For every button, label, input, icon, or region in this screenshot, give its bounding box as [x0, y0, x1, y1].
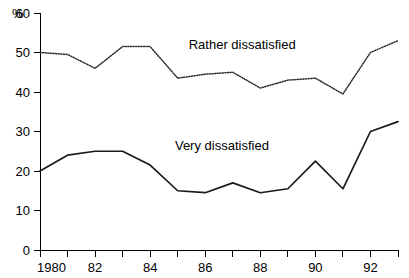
- x-tick-label: 1980: [37, 260, 66, 275]
- x-tick-label: 84: [143, 260, 157, 275]
- chart-container: 0102030405060 1980828486889092 Rather di…: [0, 0, 409, 278]
- x-tick-label: 82: [88, 260, 102, 275]
- y-axis: 0102030405060: [16, 6, 40, 258]
- y-tick-label: 40: [16, 85, 30, 100]
- series-label-group: Rather dissatisfiedVery dissatisfied: [175, 37, 296, 153]
- series-label-0: Rather dissatisfied: [189, 37, 296, 52]
- x-tick-label: 90: [308, 260, 322, 275]
- x-tick-label: 88: [253, 260, 267, 275]
- line-chart: 0102030405060 1980828486889092 Rather di…: [0, 0, 409, 278]
- x-tick-label: 92: [363, 260, 377, 275]
- y-tick-label: 20: [16, 164, 30, 179]
- y-tick-label: 0: [23, 243, 30, 258]
- series-line-1: [40, 122, 398, 193]
- series-label-1: Very dissatisfied: [175, 138, 269, 153]
- y-axis-unit-label: %: [12, 6, 24, 21]
- x-tick-label: 86: [198, 260, 212, 275]
- y-tick-label: 10: [16, 203, 30, 218]
- x-axis: 1980828486889092: [37, 250, 398, 275]
- y-tick-label: 50: [16, 45, 30, 60]
- data-series-group: [40, 41, 398, 193]
- y-tick-label: 30: [16, 124, 30, 139]
